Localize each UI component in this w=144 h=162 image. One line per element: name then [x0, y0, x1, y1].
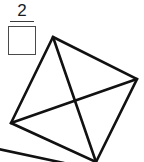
- figure-page: 2: [0, 0, 144, 162]
- cropped-line-bottom-left: [0, 149, 64, 162]
- geometry-figure: [0, 0, 144, 162]
